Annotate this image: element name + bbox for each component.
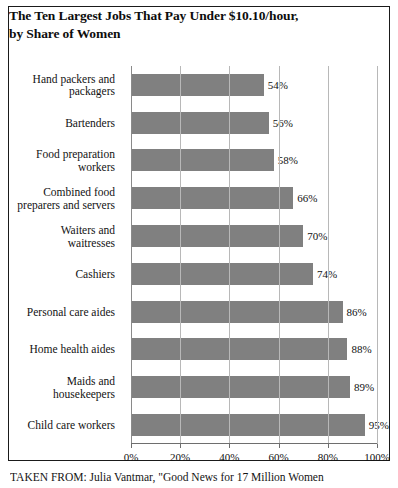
bar-row: Home health aides88% — [131, 331, 377, 369]
bar-row: Hand packers andpackagers54% — [131, 66, 377, 104]
bar-row: Waiters andwaitresses70% — [131, 217, 377, 255]
category-label: Home health aides — [0, 343, 115, 356]
category-label-line: preparers and servers — [0, 198, 115, 211]
x-tick-label: 80% — [318, 450, 338, 464]
bar-row: Child care workers95% — [131, 406, 377, 444]
category-label: Maids andhousekeepers — [0, 375, 115, 400]
chart-title-line-1: The Ten Largest Jobs That Pay Under $10.… — [9, 7, 369, 25]
bar — [131, 74, 264, 96]
bar — [131, 263, 313, 285]
bar-value-label: 66% — [293, 192, 317, 204]
category-label: Bartenders — [0, 116, 115, 129]
bar-row: Personal care aides86% — [131, 293, 377, 331]
category-label: Child care workers — [0, 419, 115, 432]
x-tick-label: 0% — [124, 450, 139, 464]
category-label: Food preparationworkers — [0, 148, 115, 173]
tickmark-60% — [279, 444, 280, 448]
bar — [131, 414, 365, 436]
category-label: Hand packers andpackagers — [0, 72, 115, 97]
chart-title: The Ten Largest Jobs That Pay Under $10.… — [9, 7, 369, 43]
category-label-line: Cashiers — [0, 268, 115, 281]
category-label-line: packagers — [0, 85, 115, 98]
category-label-line: Bartenders — [0, 116, 115, 129]
category-label-line: Food preparation — [0, 148, 115, 161]
bar-value-label: 89% — [350, 381, 374, 393]
figure-page: The Ten Largest Jobs That Pay Under $10.… — [0, 0, 398, 488]
category-label: Cashiers — [0, 268, 115, 281]
bar — [131, 149, 274, 171]
gridline-40% — [229, 66, 230, 444]
x-tick-label: 20% — [170, 450, 190, 464]
x-tick-label: 60% — [269, 450, 289, 464]
bar-value-label: 88% — [347, 343, 371, 355]
category-label: Combined foodpreparers and servers — [0, 186, 115, 211]
tickmark-20% — [180, 444, 181, 448]
category-label: Waiters andwaitresses — [0, 224, 115, 249]
category-label-line: Child care workers — [0, 419, 115, 432]
gridline-60% — [279, 66, 280, 444]
bar-value-label: 56% — [269, 117, 293, 129]
category-label-line: Hand packers and — [0, 72, 115, 85]
tickmark-100% — [377, 444, 378, 448]
bar-row: Bartenders56% — [131, 104, 377, 142]
category-label: Personal care aides — [0, 305, 115, 318]
category-label-line: Personal care aides — [0, 305, 115, 318]
bar-value-label: 58% — [274, 154, 298, 166]
tickmark-0% — [131, 444, 132, 448]
category-label-line: Combined food — [0, 186, 115, 199]
category-label-line: workers — [0, 160, 115, 173]
bar-value-label: 86% — [343, 306, 367, 318]
bar — [131, 187, 293, 209]
tickmark-40% — [229, 444, 230, 448]
source-caption: TAKEN FROM: Julia Vantmar, "Good News fo… — [10, 470, 388, 484]
x-axis-labels: 0%20%40%60%80%100% — [131, 450, 377, 466]
category-label-line: Home health aides — [0, 343, 115, 356]
bar-row: Food preparationworkers58% — [131, 142, 377, 180]
bar-row: Combined foodpreparers and servers66% — [131, 179, 377, 217]
plot-area: Hand packers andpackagers54%Bartenders56… — [131, 66, 377, 444]
gridline-80% — [328, 66, 329, 444]
bar — [131, 112, 269, 134]
x-tick-label: 40% — [219, 450, 239, 464]
bar — [131, 376, 350, 398]
tickmark-80% — [328, 444, 329, 448]
category-label-line: waitresses — [0, 236, 115, 249]
bar-row: Cashiers74% — [131, 255, 377, 293]
gridline-0% — [131, 66, 132, 444]
bar-value-label: 70% — [303, 230, 327, 242]
x-tick-label: 100% — [364, 450, 390, 464]
bar — [131, 301, 343, 323]
x-axis-line — [131, 443, 377, 444]
bar-value-label: 74% — [313, 268, 337, 280]
gridline-100% — [377, 66, 378, 444]
bar-chart: Hand packers andpackagers54%Bartenders56… — [9, 60, 389, 458]
bar-rows: Hand packers andpackagers54%Bartenders56… — [131, 66, 377, 444]
bar — [131, 225, 303, 247]
category-label-line: Waiters and — [0, 224, 115, 237]
chart-title-line-2: by Share of Women — [9, 25, 369, 43]
bar-value-label: 54% — [264, 79, 288, 91]
gridline-20% — [180, 66, 181, 444]
category-label-line: Maids and — [0, 375, 115, 388]
category-label-line: housekeepers — [0, 387, 115, 400]
bar — [131, 338, 347, 360]
bar-row: Maids andhousekeepers89% — [131, 368, 377, 406]
